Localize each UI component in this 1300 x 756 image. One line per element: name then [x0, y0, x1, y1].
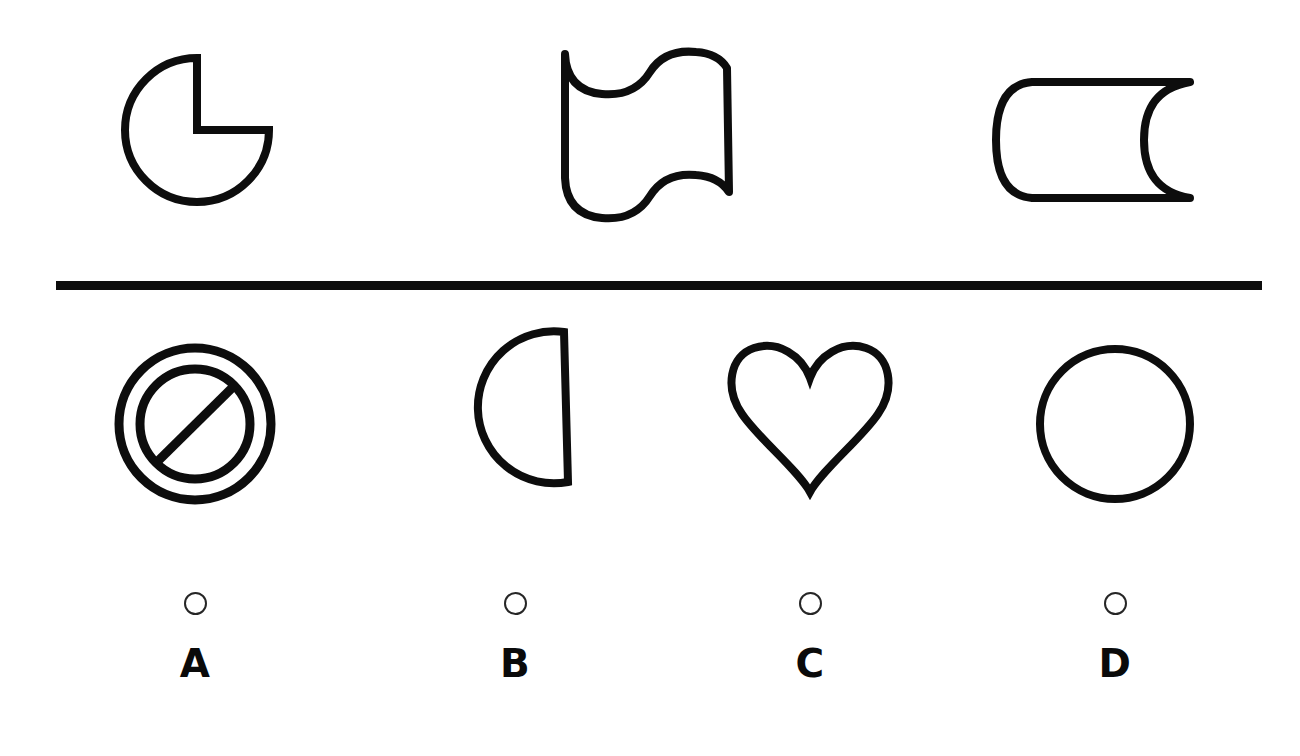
answer-options-row: A B C — [0, 320, 1300, 720]
wavy-flag-icon — [490, 40, 790, 240]
answer-option-b[interactable]: B — [385, 320, 645, 700]
answer-option-a[interactable]: A — [65, 320, 325, 700]
option-b-figure — [385, 320, 645, 535]
option-a-radio[interactable] — [184, 592, 207, 615]
prohibition-sign-icon — [65, 320, 325, 535]
prompt-shape-row — [0, 0, 1300, 262]
option-a-label: A — [65, 642, 325, 686]
option-a-figure — [65, 320, 325, 535]
prompt-shape-1 — [47, 40, 347, 240]
pac-man-circle-icon — [47, 40, 347, 240]
pac-man-rotated-icon — [385, 320, 645, 535]
option-c-label: C — [680, 642, 940, 686]
circle-outline-icon — [985, 320, 1245, 535]
option-d-figure — [985, 320, 1245, 535]
horizontal-rule — [56, 281, 1262, 290]
option-b-label: B — [385, 642, 645, 686]
answer-option-c[interactable]: C — [680, 320, 940, 700]
option-c-radio[interactable] — [799, 592, 822, 615]
option-b-radio[interactable] — [504, 592, 527, 615]
question-page: A B C — [0, 0, 1300, 756]
option-c-figure — [680, 320, 940, 535]
answer-option-d[interactable]: D — [985, 320, 1245, 700]
prompt-shape-3 — [940, 40, 1240, 240]
cylinder-banner-icon — [940, 40, 1240, 240]
option-d-radio[interactable] — [1104, 592, 1127, 615]
prompt-shape-2 — [490, 40, 790, 240]
option-d-label: D — [985, 642, 1245, 686]
heart-outline-icon — [680, 320, 940, 535]
